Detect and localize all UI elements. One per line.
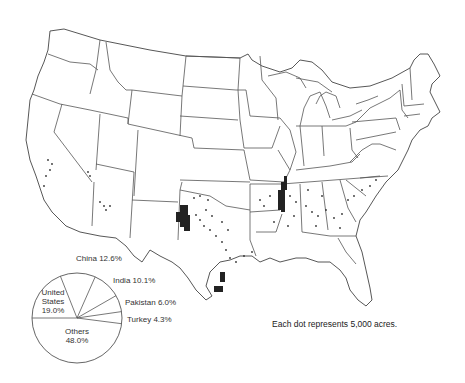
world-share-pie-chart — [32, 273, 122, 363]
state-boundaries — [26, 29, 440, 306]
pie-label-us: United States 19.0% — [38, 288, 68, 315]
pie-label-us-value: 19.0% — [38, 306, 68, 315]
pie-label-turkey: Turkey 4.3% — [127, 315, 172, 324]
pie-label-us-name-2: States — [38, 297, 68, 306]
pie-label-others-value: 48.0% — [60, 336, 94, 345]
map-dot-legend-caption: Each dot represents 5,000 acres. — [272, 319, 397, 329]
pie-label-pakistan: Pakistan 6.0% — [125, 298, 176, 307]
pie-label-china: China 12.6% — [76, 254, 122, 263]
pie-label-us-name-1: United — [38, 288, 68, 297]
pie-label-others: Others 48.0% — [60, 327, 94, 345]
pie-label-others-name: Others — [60, 327, 94, 336]
pie-label-india: India 10.1% — [113, 276, 155, 285]
